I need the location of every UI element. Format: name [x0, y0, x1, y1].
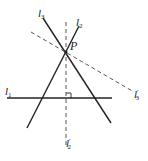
label-l1: l1: [5, 85, 12, 99]
line-l3: [43, 18, 111, 123]
line-l3-prime: [31, 32, 134, 92]
label-l2-prime: l′2: [66, 137, 72, 151]
right-angle-marker: [66, 93, 71, 98]
label-p: P: [69, 39, 78, 53]
label-l3: l3: [38, 7, 45, 21]
point-p: [64, 50, 67, 53]
label-l3-prime: l′3: [134, 88, 140, 102]
diagram-canvas: P l1 l2 l3 l′2 l′3: [0, 0, 148, 161]
label-l2: l2: [76, 16, 83, 30]
geometry-figure: P l1 l2 l3 l′2 l′3: [0, 0, 148, 161]
